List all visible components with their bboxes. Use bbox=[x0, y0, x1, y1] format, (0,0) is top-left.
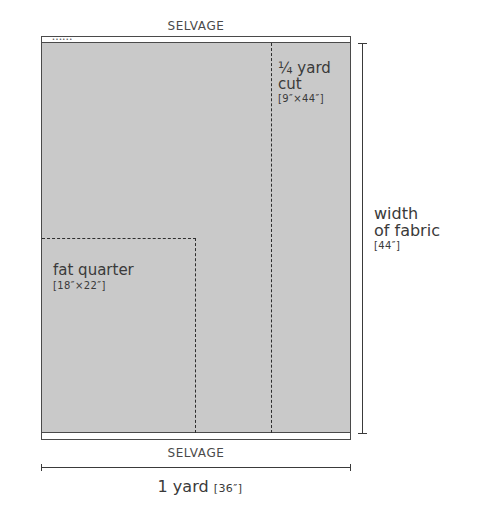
width-dimension-line bbox=[362, 43, 363, 433]
fat-quarter-label: fat quarter [18″×22″] bbox=[53, 262, 134, 291]
quarter-yard-dims: [9″×44″] bbox=[278, 93, 331, 104]
width-dims: [44″] bbox=[374, 240, 440, 251]
length-title: 1 yard bbox=[158, 477, 209, 496]
width-title: width bbox=[374, 205, 440, 222]
fat-quarter-title: fat quarter bbox=[53, 262, 134, 278]
quarter-yard-subtitle: cut bbox=[278, 76, 331, 92]
selvage-marks: •••••• bbox=[52, 37, 73, 41]
selvage-top-label: SELVAGE bbox=[136, 19, 256, 33]
quarter-yard-label: ¼ yard cut [9″×44″] bbox=[278, 60, 331, 104]
fat-quarter-horizontal-line bbox=[42, 238, 196, 239]
width-dimension-cap-bottom bbox=[358, 433, 367, 434]
width-dimension-label: width of fabric [44″] bbox=[374, 205, 440, 251]
fat-quarter-vertical-line bbox=[195, 238, 196, 433]
length-dimension-line bbox=[41, 467, 351, 468]
length-dims: [36″] bbox=[214, 482, 243, 495]
selvage-bottom-label: SELVAGE bbox=[136, 446, 256, 460]
width-subtitle: of fabric bbox=[374, 222, 440, 239]
quarter-yard-cut-line bbox=[271, 43, 272, 433]
length-dimension-cap-right bbox=[350, 464, 351, 471]
length-dimension-label: 1 yard [36″] bbox=[140, 477, 260, 496]
fat-quarter-dims: [18″×22″] bbox=[53, 280, 134, 291]
quarter-yard-title: ¼ yard bbox=[278, 60, 331, 76]
